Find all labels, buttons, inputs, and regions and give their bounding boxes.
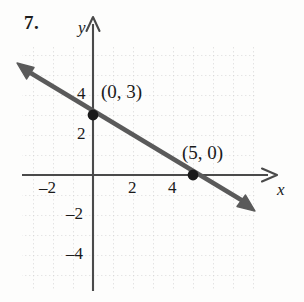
y-tick-2: 2 — [77, 124, 86, 144]
y-tick-4: 4 — [77, 84, 86, 104]
x-tick-4: 4 — [168, 178, 177, 198]
x-axis-label: x — [277, 180, 285, 200]
x-tick-minus-2: –2 — [39, 178, 56, 198]
point-label-5-0: (5, 0) — [182, 142, 223, 164]
graph-figure: 7. — [0, 0, 304, 302]
data-point-5-0 — [188, 170, 199, 181]
y-axis-label: y — [78, 18, 86, 38]
x-tick-2: 2 — [128, 178, 137, 198]
y-tick-minus-4: –4 — [66, 244, 83, 264]
data-point-0-3 — [88, 110, 99, 121]
y-tick-minus-2: –2 — [66, 204, 83, 224]
point-label-0-3: (0, 3) — [101, 81, 142, 103]
coordinate-plane — [0, 0, 304, 302]
